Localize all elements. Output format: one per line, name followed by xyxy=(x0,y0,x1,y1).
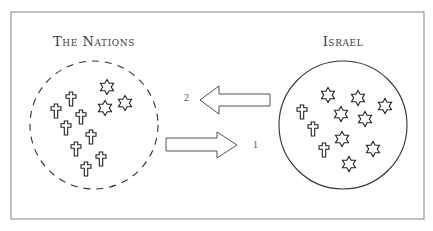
star-of-david-icon xyxy=(335,107,348,122)
arrow-label-2: 2 xyxy=(184,92,189,103)
cross-icon xyxy=(81,162,91,176)
nations-symbols xyxy=(51,80,132,177)
diagram-canvas: The Nations Israel 2 1 xyxy=(0,0,433,231)
cross-icon xyxy=(66,92,76,106)
star-of-david-icon xyxy=(352,91,365,106)
arrow-label-1: 1 xyxy=(253,139,258,150)
cross-icon xyxy=(76,110,86,124)
cross-icon xyxy=(308,122,318,136)
cross-icon xyxy=(51,104,61,118)
star-of-david-icon xyxy=(336,132,349,147)
cross-icon xyxy=(71,142,81,156)
star-of-david-icon xyxy=(101,80,114,95)
cross-icon xyxy=(96,152,106,166)
star-of-david-icon xyxy=(99,101,112,116)
arrow-right-1 xyxy=(166,132,237,158)
star-of-david-icon xyxy=(367,142,380,157)
israel-title: Israel xyxy=(323,34,364,49)
cross-icon xyxy=(61,121,71,135)
israel-symbols xyxy=(297,88,392,172)
star-of-david-icon xyxy=(343,157,356,172)
cross-icon xyxy=(86,130,96,144)
cross-icon xyxy=(297,105,307,119)
star-of-david-icon xyxy=(322,88,335,103)
star-of-david-icon xyxy=(359,112,372,127)
arrow-left-2 xyxy=(200,86,270,114)
nations-circle xyxy=(30,61,158,189)
star-of-david-icon xyxy=(379,99,392,114)
israel-circle xyxy=(279,61,407,189)
nations-title: The Nations xyxy=(53,34,135,49)
star-of-david-icon xyxy=(119,96,132,111)
cross-icon xyxy=(319,143,329,157)
